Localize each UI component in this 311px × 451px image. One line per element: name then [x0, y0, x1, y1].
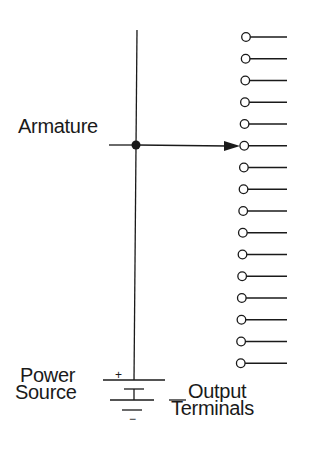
terminal-list: [236, 33, 287, 368]
terminal-contact-icon: [241, 54, 250, 63]
output-terminal: [242, 33, 287, 42]
minus-sign: −: [129, 410, 136, 428]
output-terminal: [238, 294, 288, 303]
terminal-contact-icon: [240, 163, 249, 172]
terminal-contact-icon: [238, 294, 247, 303]
output-terminals-label-line2: Terminals: [171, 399, 254, 417]
output-terminal: [239, 207, 287, 216]
output-terminal: [239, 228, 287, 237]
output-terminal: [238, 272, 287, 281]
output-terminal: [240, 120, 287, 129]
output-terminal: [237, 337, 287, 346]
terminal-contact-icon: [238, 272, 247, 281]
output-terminal: [241, 54, 287, 63]
terminal-contact-icon: [241, 76, 250, 85]
output-terminal: [239, 185, 287, 194]
terminal-contact-icon: [242, 33, 251, 42]
output-terminal: [238, 250, 287, 259]
terminal-contact-icon: [240, 141, 249, 150]
output-terminal: [237, 315, 287, 324]
armature-shaft: [134, 30, 137, 380]
armature-arm: [137, 145, 228, 146]
arrowhead-icon: [224, 141, 240, 151]
power-source-label-line2: Source: [15, 383, 77, 401]
terminal-contact-icon: [239, 207, 248, 216]
terminal-contact-icon: [237, 315, 246, 324]
armature-label: Armature: [18, 117, 98, 135]
terminal-contact-icon: [236, 359, 245, 368]
output-terminal: [241, 98, 287, 107]
output-terminal: [236, 359, 287, 368]
terminal-contact-icon: [239, 185, 248, 194]
terminal-contact-icon: [239, 228, 248, 237]
output-terminal: [240, 163, 287, 172]
terminal-contact-icon: [238, 250, 247, 259]
terminal-contact-icon: [241, 98, 250, 107]
output-terminal: [241, 76, 287, 85]
output-terminal: [240, 141, 287, 150]
armature-pivot-icon: [132, 141, 141, 150]
terminal-contact-icon: [237, 337, 246, 346]
plus-sign: +: [115, 366, 122, 384]
terminal-contact-icon: [240, 120, 249, 129]
